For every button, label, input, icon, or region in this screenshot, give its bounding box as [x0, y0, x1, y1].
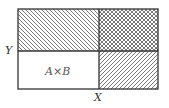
region-label-a-times-b: A×B: [45, 66, 70, 77]
region-top-left: [18, 9, 99, 51]
diagram-canvas: [0, 0, 169, 108]
y-axis-label: Y: [5, 45, 12, 56]
region-top-right: [99, 9, 158, 51]
x-axis-label: X: [94, 92, 102, 103]
region-bottom-right: [99, 51, 158, 89]
